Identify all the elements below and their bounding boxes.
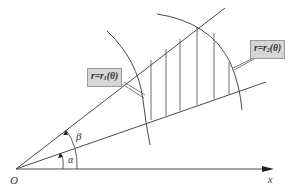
curve-r2-label: r=r2(θ) xyxy=(250,40,285,59)
origin-label: O xyxy=(10,175,18,186)
ray-beta xyxy=(16,8,225,169)
curve-r1-label-prefix: r=r xyxy=(91,71,104,81)
polar-region-diagram xyxy=(0,0,293,196)
x-axis-arrow-icon xyxy=(262,166,274,172)
curve-r1-label: r=r1(θ) xyxy=(87,68,122,87)
curve-r1-label-suffix: (θ) xyxy=(107,71,118,81)
leader-r1 xyxy=(124,82,145,95)
ray-alpha xyxy=(16,82,266,169)
leader-r2b xyxy=(234,58,256,70)
x-axis-label: x xyxy=(268,175,272,185)
curve-r2-label-prefix: r=r xyxy=(254,43,267,53)
hatch-lines xyxy=(151,27,229,120)
angle-beta-label: β xyxy=(76,131,81,142)
curve-r2-label-suffix: (θ) xyxy=(270,43,281,53)
angle-alpha-label: α xyxy=(68,155,73,165)
